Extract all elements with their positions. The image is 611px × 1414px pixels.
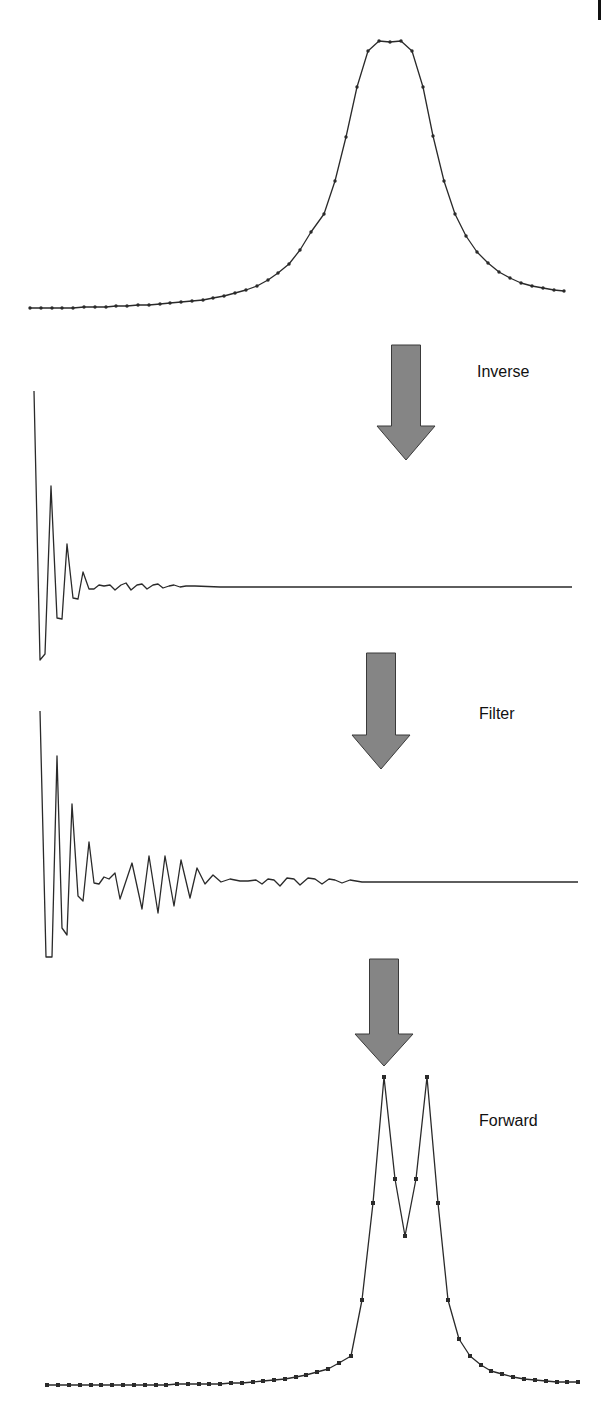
flow-arrows <box>352 345 435 1066</box>
data-point-marker <box>89 1383 93 1387</box>
data-point-marker <box>283 1377 287 1381</box>
data-point-marker <box>565 1380 569 1384</box>
data-point-marker <box>67 1383 71 1387</box>
data-point-marker <box>421 85 424 88</box>
data-point-marker <box>229 1381 233 1385</box>
data-point-marker <box>479 1363 483 1367</box>
data-point-marker <box>541 286 544 289</box>
data-point-marker <box>240 1381 244 1385</box>
data-point-marker <box>261 1379 265 1383</box>
data-point-marker <box>28 306 31 309</box>
data-point-marker <box>497 270 500 273</box>
data-point-marker <box>287 262 290 265</box>
data-point-marker <box>175 1382 179 1386</box>
down-arrow-inverse-icon <box>377 345 435 460</box>
data-point-marker <box>45 1383 49 1387</box>
data-point-marker <box>333 179 336 182</box>
data-point-marker <box>382 1075 386 1079</box>
data-point-marker <box>207 1382 211 1386</box>
processing-diagram <box>0 0 611 1414</box>
data-point-marker <box>276 271 279 274</box>
data-point-marker <box>121 1383 125 1387</box>
data-point-marker <box>468 1354 472 1358</box>
data-point-marker <box>508 276 511 279</box>
data-point-marker <box>562 289 565 292</box>
data-point-marker <box>93 305 96 308</box>
data-point-marker <box>71 306 74 309</box>
data-point-marker <box>82 305 85 308</box>
data-point-marker <box>519 281 522 284</box>
original-spectrum-chart <box>28 39 565 309</box>
data-point-marker <box>132 1383 136 1387</box>
data-point-marker <box>56 1383 60 1387</box>
data-point-marker <box>60 306 63 309</box>
data-point-marker <box>530 284 533 287</box>
data-point-marker <box>457 1337 461 1341</box>
data-point-marker <box>201 298 204 301</box>
data-point-marker <box>309 230 312 233</box>
data-point-marker <box>371 1201 375 1205</box>
data-point-marker <box>154 1383 158 1387</box>
data-point-marker <box>436 1201 440 1205</box>
data-point-marker <box>218 1382 222 1386</box>
data-point-marker <box>114 304 117 307</box>
data-point-marker <box>233 291 236 294</box>
data-point-marker <box>326 1367 330 1371</box>
data-point-marker <box>446 1298 450 1302</box>
data-point-marker <box>552 288 555 291</box>
data-point-marker <box>197 1382 201 1386</box>
data-point-marker <box>453 212 456 215</box>
data-point-marker <box>344 135 347 138</box>
data-point-marker <box>388 40 391 43</box>
data-point-marker <box>555 1380 559 1384</box>
step-label-inverse: Inverse <box>477 363 529 381</box>
data-point-marker <box>315 1370 319 1374</box>
data-point-marker <box>168 301 171 304</box>
data-line <box>34 391 572 660</box>
data-point-marker <box>266 278 269 281</box>
data-point-marker <box>39 306 42 309</box>
data-point-marker <box>475 250 478 253</box>
data-point-marker <box>355 85 358 88</box>
data-point-marker <box>337 1361 341 1365</box>
data-point-marker <box>143 1383 147 1387</box>
data-point-marker <box>399 39 402 42</box>
data-point-marker <box>425 1075 429 1079</box>
data-point-marker <box>500 1372 504 1376</box>
data-point-marker <box>78 1383 82 1387</box>
filtered-signal-chart <box>40 711 578 957</box>
data-point-marker <box>403 1234 407 1238</box>
data-point-marker <box>511 1375 515 1379</box>
data-point-marker <box>298 248 301 251</box>
data-point-marker <box>393 1177 397 1181</box>
data-point-marker <box>99 1383 103 1387</box>
data-point-marker <box>50 306 53 309</box>
data-point-marker <box>304 1373 308 1377</box>
data-point-marker <box>544 1379 548 1383</box>
data-point-marker <box>431 134 434 137</box>
data-point-marker <box>322 212 325 215</box>
down-arrow-filter-icon <box>352 653 410 769</box>
data-point-marker <box>136 303 139 306</box>
data-point-marker <box>104 305 107 308</box>
data-point-marker <box>489 1369 493 1373</box>
down-arrow-forward-icon <box>355 959 413 1066</box>
data-point-marker <box>414 1177 418 1181</box>
data-point-marker <box>190 299 193 302</box>
data-point-marker <box>360 1298 364 1302</box>
data-point-marker <box>251 1380 255 1384</box>
data-point-marker <box>366 49 369 52</box>
data-line <box>30 41 564 308</box>
step-label-forward: Forward <box>479 1112 538 1130</box>
data-point-marker <box>125 304 128 307</box>
data-point-marker <box>533 1378 537 1382</box>
data-point-marker <box>294 1375 298 1379</box>
data-point-marker <box>222 294 225 297</box>
data-point-marker <box>442 179 445 182</box>
data-point-marker <box>110 1383 114 1387</box>
data-point-marker <box>147 303 150 306</box>
step-label-filter: Filter <box>479 705 515 723</box>
data-point-marker <box>349 1354 353 1358</box>
data-point-marker <box>464 234 467 237</box>
data-point-marker <box>272 1378 276 1382</box>
